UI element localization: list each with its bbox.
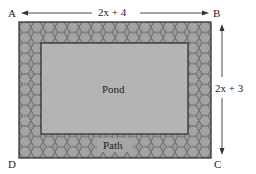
corner-label-b: B bbox=[213, 8, 220, 19]
path-label: Path bbox=[103, 140, 123, 151]
width-dimension-label: 2x + 4 bbox=[98, 7, 126, 18]
pond-label: Pond bbox=[102, 84, 125, 95]
corner-label-c: C bbox=[214, 159, 221, 170]
corner-label-a: A bbox=[8, 8, 16, 19]
height-dimension-label: 2x + 3 bbox=[215, 83, 243, 94]
corner-label-d: D bbox=[8, 159, 16, 170]
